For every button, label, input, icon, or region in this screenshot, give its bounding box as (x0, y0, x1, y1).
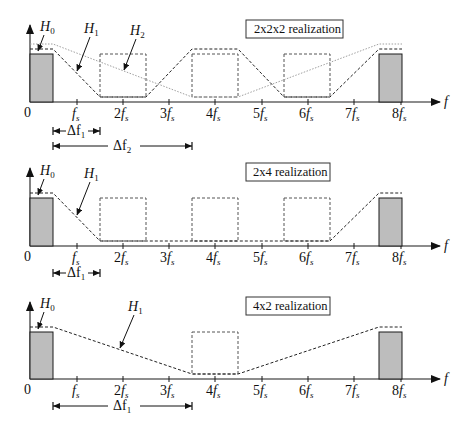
dashed-band-4fs (192, 54, 238, 97)
svg-text:6fs: 6fs (299, 106, 314, 123)
svg-text:H1: H1 (127, 299, 143, 316)
passband-block-low (30, 54, 53, 102)
curve-h2 (30, 44, 402, 97)
svg-text:H2: H2 (129, 23, 145, 40)
curve-h1 (30, 193, 402, 241)
panel-title: 2x4 realization (253, 165, 328, 179)
label-h0: H0 (38, 19, 55, 51)
svg-text:2fs: 2fs (114, 106, 129, 123)
dimension-delta-f1: Δf1 (53, 398, 192, 415)
origin-label: 0 (24, 249, 31, 264)
label-h0: H0 (38, 296, 55, 329)
passband-block-high (379, 198, 402, 246)
x-tick-labels: fs 2fs 3fs 4fs 5fs 6fs 7fs 8fs (72, 106, 407, 123)
label-h1: H1 (77, 166, 99, 215)
dashed-band-2fs (100, 198, 146, 241)
panel-title-box: 2x2x2 realization (246, 20, 343, 38)
origin-label: 0 (24, 382, 31, 397)
svg-text:4fs: 4fs (206, 383, 221, 400)
svg-text:4fs: 4fs (206, 106, 221, 123)
svg-text:5fs: 5fs (253, 250, 268, 267)
svg-text:Δf1: Δf1 (67, 123, 85, 140)
svg-text:fs: fs (72, 383, 80, 400)
filter-bank-diagram: 2x2x2 realization f 0 fs 2fs 3fs 4fs 5fs… (0, 0, 476, 432)
svg-text:Δf1: Δf1 (113, 398, 131, 415)
label-h2: H2 (124, 23, 145, 70)
svg-text:7fs: 7fs (345, 250, 360, 267)
svg-text:8fs: 8fs (392, 106, 407, 123)
panel-title: 4x2 realization (253, 299, 328, 313)
curve-h1 (30, 327, 402, 374)
svg-text:3fs: 3fs (160, 250, 175, 267)
dimension-delta-f1: Δf1 (53, 265, 100, 282)
svg-text:4fs: 4fs (206, 250, 221, 267)
passband-block-low (30, 198, 53, 246)
svg-text:Δf1: Δf1 (67, 265, 85, 282)
label-h0: H0 (38, 163, 55, 195)
svg-text:3fs: 3fs (160, 106, 175, 123)
svg-text:2fs: 2fs (114, 250, 129, 267)
svg-text:fs: fs (72, 106, 80, 123)
passband-block-low (30, 332, 53, 379)
x-tick-labels: fs 2fs 3fs 4fs 5fs 6fs 7fs 8fs (72, 250, 407, 267)
svg-text:5fs: 5fs (253, 106, 268, 123)
panel-title-box: 2x4 realization (246, 163, 330, 181)
svg-text:H1: H1 (83, 166, 99, 183)
svg-text:5fs: 5fs (253, 383, 268, 400)
label-h1: H1 (120, 299, 143, 348)
svg-text:7fs: 7fs (345, 106, 360, 123)
svg-text:H0: H0 (39, 296, 55, 313)
dimension-delta-f2: Δf2 (53, 138, 192, 155)
dashed-band-4fs (192, 198, 238, 241)
x-axis-label: f (444, 94, 450, 109)
svg-text:6fs: 6fs (299, 250, 314, 267)
svg-text:H0: H0 (39, 19, 55, 36)
panel-2x2x2: 2x2x2 realization f 0 fs 2fs 3fs 4fs 5fs… (24, 19, 450, 155)
dashed-band-6fs (284, 54, 330, 97)
svg-text:H1: H1 (83, 21, 99, 38)
x-axis-label: f (444, 238, 450, 253)
origin-label: 0 (24, 105, 31, 120)
panel-4x2: 4x2 realization f 0 fs 2fs 3fs 4fs 5fs 6… (24, 296, 450, 415)
dashed-band-2fs (100, 54, 146, 97)
svg-text:8fs: 8fs (392, 250, 407, 267)
svg-text:3fs: 3fs (160, 383, 175, 400)
panel-2x4: 2x4 realization f 0 fs 2fs 3fs 4fs 5fs 6… (24, 163, 450, 282)
dashed-band-6fs (284, 198, 330, 241)
svg-text:6fs: 6fs (299, 383, 314, 400)
label-h1: H1 (77, 21, 99, 71)
svg-text:8fs: 8fs (392, 383, 407, 400)
panel-title-box: 4x2 realization (246, 297, 330, 315)
passband-block-high (379, 54, 402, 102)
svg-text:H0: H0 (39, 163, 55, 180)
x-axis-label: f (444, 371, 450, 386)
passband-block-high (379, 332, 402, 379)
dimension-delta-f1: Δf1 (53, 123, 100, 140)
svg-text:7fs: 7fs (345, 383, 360, 400)
dashed-band-4fs (192, 332, 238, 374)
svg-text:Δf2: Δf2 (113, 138, 131, 155)
panel-title: 2x2x2 realization (254, 22, 342, 36)
